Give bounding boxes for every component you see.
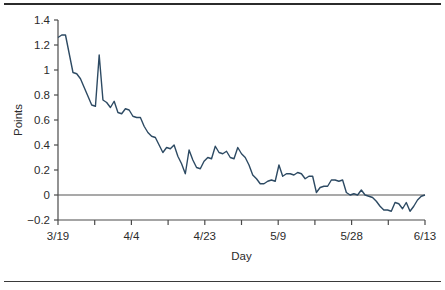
series-line-points: [58, 35, 425, 211]
y-tick-label: 0.8: [34, 89, 50, 101]
x-axis: 3/194/44/235/95/286/13: [47, 220, 436, 242]
y-tick-label: 0.2: [34, 164, 50, 176]
x-axis-title: Day: [231, 250, 252, 262]
x-tick-label: 5/9: [270, 230, 286, 242]
line-chart: 1.41.210.80.60.40.20−0.2 3/194/44/235/95…: [0, 8, 445, 278]
x-tick-label: 6/13: [414, 230, 436, 242]
y-tick-label: 1.2: [34, 39, 50, 51]
y-tick-label: 0.6: [34, 114, 50, 126]
x-tick-label: 4/23: [194, 230, 216, 242]
y-tick-label: −0.2: [27, 214, 50, 226]
bottom-horizontal-rule: [4, 281, 441, 282]
x-tick-label: 5/28: [340, 230, 362, 242]
y-axis-title: Points: [12, 104, 24, 136]
y-axis: 1.41.210.80.60.40.20−0.2: [27, 14, 58, 226]
figure-container: 1.41.210.80.60.40.20−0.2 3/194/44/235/95…: [0, 0, 445, 290]
x-tick-label: 4/4: [123, 230, 140, 242]
y-tick-label: 1.4: [34, 14, 51, 26]
x-tick-label: 3/19: [47, 230, 69, 242]
y-tick-label: 0.4: [34, 139, 51, 151]
y-tick-label: 1: [44, 64, 50, 76]
top-horizontal-rule: [4, 3, 441, 5]
data-series-points: [58, 35, 425, 211]
y-tick-label: 0: [44, 189, 50, 201]
